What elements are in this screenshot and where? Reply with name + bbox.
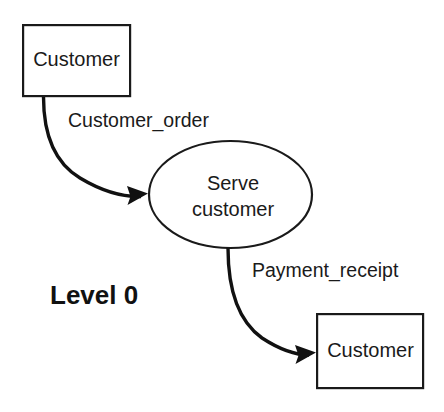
external-entity-customer-sink[interactable]: Customer: [317, 314, 423, 388]
diagram-canvas: Customer Customer_order Serve customer P…: [0, 0, 444, 412]
customer-order-label: Customer_order: [68, 109, 209, 132]
diagram-caption: Level 0: [50, 280, 138, 310]
serve-customer-label-line1: Serve: [207, 172, 259, 194]
external-entity-customer-source[interactable]: Customer: [23, 25, 130, 96]
customer-source-label: Customer: [33, 48, 120, 70]
serve-customer-ellipse[interactable]: [149, 141, 312, 248]
payment-receipt-label: Payment_receipt: [252, 259, 399, 282]
dfd-diagram: Customer Customer_order Serve customer P…: [0, 0, 444, 412]
serve-customer-label-line2: customer: [192, 198, 275, 220]
process-serve-customer[interactable]: Serve customer: [149, 141, 312, 248]
customer-sink-label: Customer: [327, 339, 414, 361]
